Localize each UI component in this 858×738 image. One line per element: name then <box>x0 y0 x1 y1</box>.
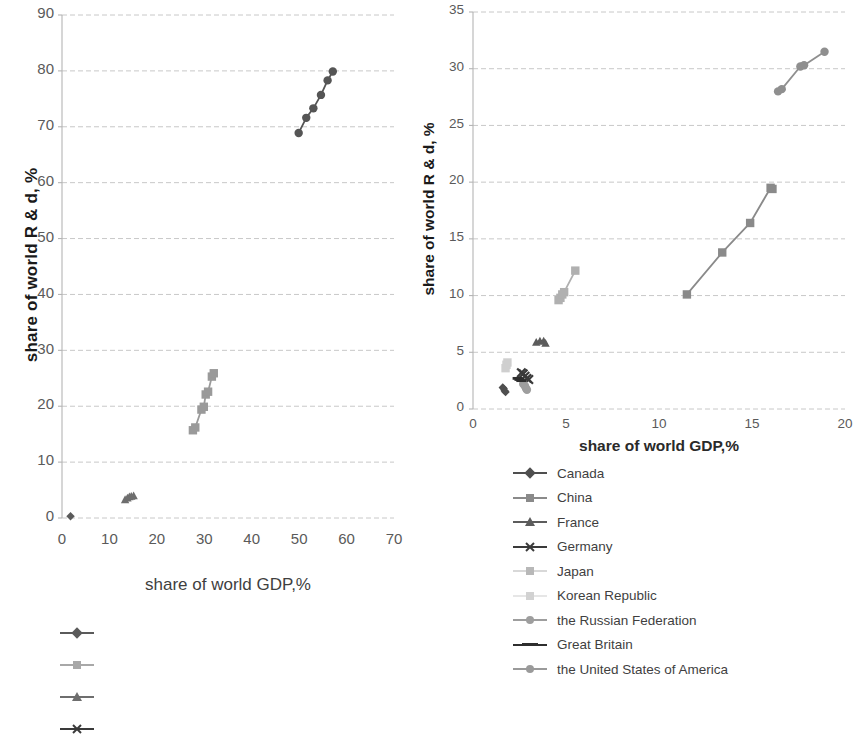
legend-item-the-russian-federation[interactable]: the Russian Federation <box>513 608 728 633</box>
data-point-marker <box>204 387 212 395</box>
data-point-marker <box>768 185 776 193</box>
legend-marker-icon <box>513 612 547 628</box>
legend-item-label: the United States of America <box>557 663 728 677</box>
legend-item-marker-3[interactable] <box>60 713 104 738</box>
data-point-marker <box>718 248 726 256</box>
legend-marker-icon <box>60 721 94 737</box>
chart-right-panel: share of world R & d, % 05101520253035 0… <box>400 0 858 733</box>
legend-item-label: Canada <box>557 467 604 481</box>
legend-marker-icon <box>513 637 547 653</box>
data-point-marker <box>571 266 579 274</box>
chart-left-legend <box>60 617 104 738</box>
legend-marker-icon <box>513 563 547 579</box>
legend-marker-icon <box>513 539 547 555</box>
legend-item-great-britain[interactable]: Great Britain <box>513 633 728 658</box>
legend-item-france[interactable]: France <box>513 510 728 535</box>
legend-item-marker-2[interactable] <box>60 681 104 713</box>
chart-right-x-axis-title: share of world GDP,% <box>473 437 845 455</box>
legend-item-the-united-states-of-america[interactable]: the United States of America <box>513 657 728 682</box>
data-point-marker <box>200 403 208 411</box>
series-line <box>778 52 825 92</box>
data-point-marker <box>329 67 337 75</box>
legend-item-label: Japan <box>557 565 594 579</box>
legend-marker-icon <box>513 588 547 604</box>
chart-left-x-axis-title: share of world GDP,% <box>62 575 394 595</box>
data-point-marker <box>317 91 325 99</box>
data-point-marker <box>560 288 568 296</box>
data-point-marker <box>746 219 754 227</box>
legend-item-china[interactable]: China <box>513 486 728 511</box>
data-point-marker <box>66 512 74 520</box>
data-point-marker <box>191 423 199 431</box>
chart-left-plot-area <box>0 0 430 600</box>
legend-marker-icon <box>513 661 547 677</box>
data-point-marker <box>309 104 317 112</box>
data-point-marker <box>800 61 808 69</box>
data-point-marker <box>523 386 531 394</box>
legend-item-label: Great Britain <box>557 638 633 652</box>
legend-item-label: Germany <box>557 540 613 554</box>
legend-marker-icon <box>513 490 547 506</box>
legend-item-germany[interactable]: Germany <box>513 535 728 560</box>
legend-item-japan[interactable]: Japan <box>513 559 728 584</box>
legend-marker-icon <box>60 625 94 641</box>
legend-marker-icon <box>513 465 547 481</box>
legend-marker-icon <box>513 514 547 530</box>
chart-right-plot-area <box>400 0 858 430</box>
chart-right-legend: CanadaChinaFranceGermanyJapanKorean Repu… <box>513 461 728 682</box>
data-point-marker <box>516 379 526 382</box>
data-point-marker <box>302 114 310 122</box>
series-line <box>687 188 773 295</box>
legend-item-canada[interactable]: Canada <box>513 461 728 486</box>
data-point-marker <box>778 85 786 93</box>
data-point-marker <box>323 76 331 84</box>
legend-item-korean-republic[interactable]: Korean Republic <box>513 584 728 609</box>
legend-item-label: the Russian Federation <box>557 614 697 628</box>
data-point-marker <box>210 369 218 377</box>
data-point-marker <box>820 48 828 56</box>
legend-item-label: Korean Republic <box>557 589 657 603</box>
legend-marker-icon <box>60 657 94 673</box>
legend-marker-icon <box>60 689 94 705</box>
legend-item-marker-1[interactable] <box>60 649 104 681</box>
chart-left-panel: share of world R & d, % 0102030405060708… <box>0 0 430 733</box>
legend-item-label: France <box>557 516 599 530</box>
legend-item-label: China <box>557 491 592 505</box>
data-point-marker <box>503 358 511 366</box>
data-point-marker <box>683 290 691 298</box>
series-line <box>193 373 214 430</box>
data-point-marker <box>294 129 302 137</box>
legend-item-marker-0[interactable] <box>60 617 104 649</box>
